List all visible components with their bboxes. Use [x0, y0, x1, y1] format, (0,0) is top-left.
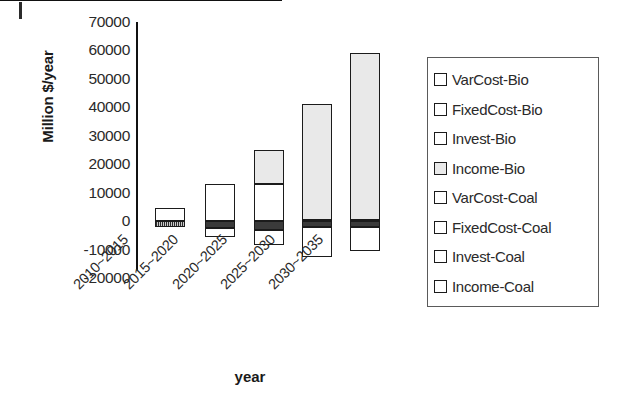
bar-segment[interactable] — [155, 208, 185, 221]
chart-figure: Million $/year 7000060000500004000030000… — [0, 0, 627, 412]
legend-swatch-icon — [434, 221, 447, 234]
y-tick-label: 20000 — [52, 156, 130, 172]
legend-item-label: Income-Coal — [452, 278, 534, 295]
bar-segment[interactable] — [254, 221, 284, 230]
bar-segment[interactable] — [350, 53, 380, 219]
legend-item[interactable]: FixedCost-Bio — [434, 95, 598, 125]
bar-segment[interactable] — [205, 184, 235, 221]
legend-swatch-icon — [434, 280, 447, 293]
y-tick-label: 70000 — [52, 14, 130, 30]
legend-item[interactable]: Invest-Coal — [434, 242, 598, 272]
legend-item[interactable]: FixedCost-Coal — [434, 213, 598, 243]
legend-swatch-icon — [434, 132, 447, 145]
y-tick-label: 0 — [52, 213, 130, 229]
legend-item-label: VarCost-Coal — [452, 189, 537, 206]
legend-item-label: FixedCost-Coal — [452, 219, 551, 236]
legend-item[interactable]: Income-Bio — [434, 154, 598, 184]
legend-item[interactable]: Income-Coal — [434, 272, 598, 302]
y-tick-label: 60000 — [52, 42, 130, 58]
bar-segment[interactable] — [254, 184, 284, 221]
legend-swatch-icon — [434, 103, 447, 116]
x-axis-title: year — [180, 368, 320, 385]
y-tick-label: 40000 — [52, 99, 130, 115]
bar-segment[interactable] — [302, 104, 332, 219]
plot-area — [136, 16, 420, 272]
legend-item-label: VarCost-Bio — [452, 71, 528, 88]
chart-legend: VarCost-BioFixedCost-BioInvest-BioIncome… — [427, 57, 599, 307]
bar-segment[interactable] — [254, 150, 284, 184]
legend-item-label: Income-Bio — [452, 160, 525, 177]
legend-swatch-icon — [434, 250, 447, 263]
legend-item-label: Invest-Coal — [452, 248, 525, 265]
bar-segment[interactable] — [350, 227, 380, 251]
legend-item[interactable]: VarCost-Coal — [434, 183, 598, 213]
legend-item[interactable]: VarCost-Bio — [434, 65, 598, 95]
bar-segment[interactable] — [155, 221, 185, 227]
scan-artifact-tick — [19, 2, 22, 19]
y-tick-label: 50000 — [52, 71, 130, 87]
y-axis-tick-labels: 700006000050000400003000020000100000-100… — [52, 0, 130, 412]
legend-swatch-icon — [434, 162, 447, 175]
y-tick-label: 30000 — [52, 128, 130, 144]
y-tick-label: 10000 — [52, 185, 130, 201]
bar-segment[interactable] — [205, 221, 235, 228]
zero-baseline — [0, 0, 282, 1]
bar-group[interactable] — [350, 16, 380, 272]
legend-item-label: Invest-Bio — [452, 130, 516, 147]
legend-swatch-icon — [434, 191, 447, 204]
legend-item[interactable]: Invest-Bio — [434, 124, 598, 154]
legend-swatch-icon — [434, 73, 447, 86]
legend-item-label: FixedCost-Bio — [452, 101, 542, 118]
